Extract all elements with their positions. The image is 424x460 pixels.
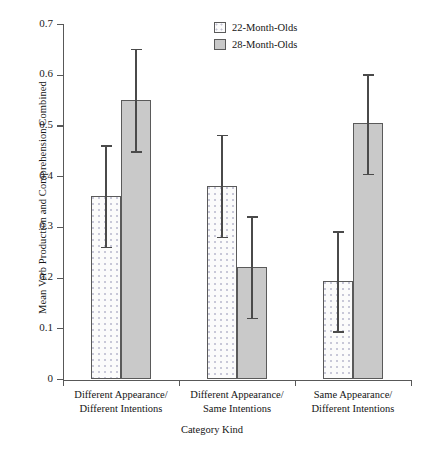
category-label-line: Different Intentions — [283, 402, 423, 416]
legend: 22-Month-Olds 28-Month-Olds — [214, 19, 297, 53]
bar-chart-figure: Mean Verb Production and Comprehension C… — [0, 0, 424, 460]
y-tick-label: 0.4 — [13, 169, 53, 181]
y-tick-mark — [57, 176, 64, 177]
error-bar-stem — [135, 49, 136, 151]
error-bar-cap-lower — [333, 331, 344, 332]
legend-item-22-month-olds: 22-Month-Olds — [214, 19, 297, 35]
error-bar-stem — [105, 145, 106, 246]
error-bar-cap-upper — [101, 145, 112, 146]
error-bar-cap-upper — [363, 74, 374, 75]
category-label-3: Same Appearance/Different Intentions — [283, 388, 423, 415]
x-tick-mark — [179, 380, 180, 386]
error-bar-cap-upper — [217, 135, 228, 136]
y-tick-label: 0.2 — [13, 270, 53, 282]
x-tick-mark — [411, 380, 412, 386]
y-tick-mark — [57, 278, 64, 279]
error-bar-cap-lower — [131, 151, 142, 152]
error-bar-stem — [251, 216, 252, 317]
y-tick-mark — [57, 328, 64, 329]
error-bar-cap-upper — [247, 216, 258, 217]
x-axis-title: Category Kind — [0, 424, 424, 435]
error-bar-cap-lower — [247, 318, 258, 319]
legend-label: 22-Month-Olds — [232, 22, 297, 33]
x-tick-mark — [295, 380, 296, 386]
error-bar-cap-upper — [131, 49, 142, 50]
error-bar-stem — [221, 135, 222, 236]
legend-label: 28-Month-Olds — [232, 39, 297, 50]
y-tick-mark — [57, 24, 64, 25]
error-bar-stem — [367, 74, 368, 174]
x-axis-line — [63, 380, 411, 381]
error-bar-cap-upper — [333, 231, 344, 232]
error-bar-stem — [337, 231, 338, 331]
error-bar-cap-lower — [363, 174, 374, 175]
y-tick-mark — [57, 75, 64, 76]
y-tick-label: 0 — [13, 372, 53, 384]
y-tick-mark — [57, 227, 64, 228]
y-tick-label: 0.3 — [13, 219, 53, 231]
legend-item-28-month-olds: 28-Month-Olds — [214, 36, 297, 52]
y-tick-label: 0.7 — [13, 17, 53, 29]
y-tick-label: 0.1 — [13, 321, 53, 333]
gray-swatch-icon — [214, 39, 226, 50]
x-tick-mark — [63, 380, 64, 386]
category-label-line: Same Appearance/ — [283, 388, 423, 402]
y-tick-mark — [57, 125, 64, 126]
error-bar-cap-lower — [101, 247, 112, 248]
y-tick-label: 0.5 — [13, 118, 53, 130]
dotted-swatch-icon — [214, 22, 226, 33]
error-bar-cap-lower — [217, 237, 228, 238]
y-tick-label: 0.6 — [13, 67, 53, 79]
y-axis-title: Mean Verb Production and Comprehension C… — [37, 33, 48, 363]
